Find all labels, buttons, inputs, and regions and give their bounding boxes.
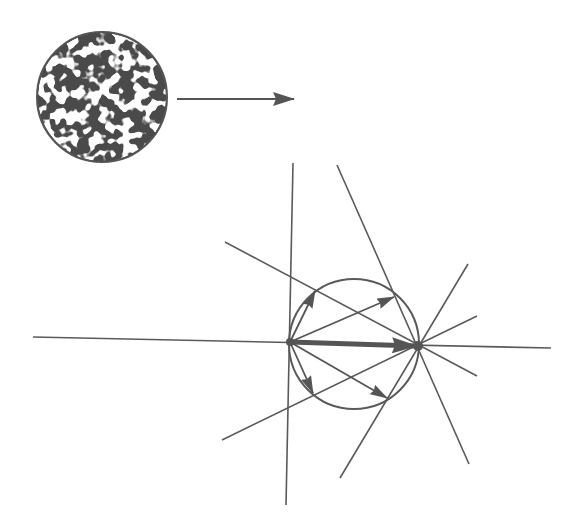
ray-line-upper [337,165,469,464]
origin-point [286,338,294,346]
textured-sphere [37,32,167,162]
ray-line-lower-left [222,316,477,440]
scattered-vector-1 [290,291,315,342]
main-vector [290,342,416,346]
scattering-diagram [0,0,577,525]
ray-lines [33,163,551,505]
scattered-vector-3 [290,342,387,398]
focus-point [413,341,423,351]
ray-line-lower [340,264,468,478]
ray-line-upper-left [225,242,477,376]
